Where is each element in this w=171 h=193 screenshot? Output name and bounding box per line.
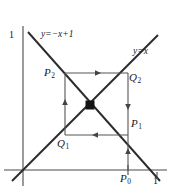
arrow-right-on-p2-q2 xyxy=(95,70,101,76)
point-label-p1-letter: P xyxy=(131,117,138,129)
point-label-p1-subscript: 1 xyxy=(138,122,142,131)
cobweb-path xyxy=(65,73,128,170)
point-label-q1-subscript: 1 xyxy=(65,142,69,151)
point-label-q1: Q1 xyxy=(57,138,69,149)
arrow-up-on-p0-p1 xyxy=(125,148,131,154)
y-axis-one-label: 1 xyxy=(9,30,14,40)
diagram-canvas xyxy=(0,0,171,193)
point-label-p1: P1 xyxy=(131,118,141,129)
line-y-equals-x xyxy=(12,35,158,181)
fixed-point-dot xyxy=(86,101,95,110)
point-label-p0-subscript: 0 xyxy=(127,177,131,186)
point-label-p2-letter: P xyxy=(44,66,51,78)
x-axis-one-label: 1 xyxy=(153,176,158,186)
point-label-p0: P0 xyxy=(120,173,130,184)
point-label-p2-subscript: 2 xyxy=(51,71,55,80)
point-label-q2-letter: Q xyxy=(129,71,137,83)
cobweb-diagram-figure: 1 1 y=−x+1 y=x P2 Q2 P1 Q1 P0 xyxy=(0,0,171,193)
line-decreasing-equation-label: y=−x+1 xyxy=(41,30,73,40)
point-label-p0-letter: P xyxy=(120,172,127,184)
arrow-left-on-p1-q1 xyxy=(92,132,98,138)
point-label-q2-subscript: 2 xyxy=(137,76,141,85)
arrow-up-on-q1-p2 xyxy=(62,99,68,105)
arrow-down-on-q2-p1 xyxy=(125,104,131,110)
point-label-q2: Q2 xyxy=(129,72,141,83)
point-label-p2: P2 xyxy=(44,67,54,78)
line-increasing-equation-label: y=x xyxy=(133,47,148,57)
point-label-q1-letter: Q xyxy=(57,137,65,149)
